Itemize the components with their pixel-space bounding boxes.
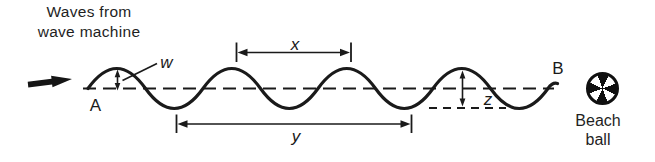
beach-ball-caption-line-1: Beach (563, 112, 633, 131)
z-arrowhead-down (460, 99, 466, 107)
label-point-a: A (90, 96, 102, 115)
x-arrowhead-left (238, 49, 248, 57)
wave-figure: w x y z A B (0, 0, 655, 162)
distance-dimension-y: y (177, 115, 412, 146)
label-x: x (290, 35, 300, 54)
label-y: y (291, 127, 302, 146)
beach-ball-caption-line-2: ball (563, 131, 633, 150)
x-arrowhead-right (340, 49, 350, 57)
label-point-b: B (552, 59, 563, 78)
y-arrowhead-right (401, 120, 411, 127)
y-arrowhead-left (178, 120, 188, 127)
beach-ball-icon (586, 72, 619, 105)
wavelength-dimension-x: x (237, 35, 352, 62)
z-arrowhead-up (460, 71, 466, 79)
wave-direction-arrow-icon (28, 76, 72, 88)
wave-diagram: Waves from wave machine w x (0, 0, 655, 162)
label-w: w (160, 53, 174, 72)
beach-ball-caption: Beach ball (563, 112, 633, 149)
label-z: z (483, 90, 493, 109)
amplitude-arrowhead-up (115, 70, 121, 78)
